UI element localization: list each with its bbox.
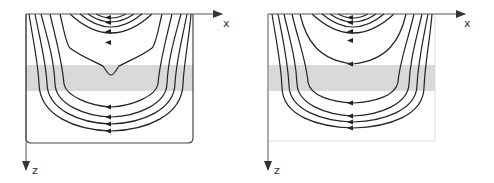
x-axis-label: x: [464, 17, 471, 30]
shallow-arrowheads: [347, 15, 353, 67]
left-panel: x z: [26, 14, 230, 177]
shallow-arrowheads: [105, 15, 111, 45]
z-axis-label: z: [274, 164, 280, 177]
right-panel: x z: [268, 14, 471, 177]
diagram-canvas: x z: [0, 0, 494, 183]
z-axis-label: z: [32, 164, 38, 177]
deep-arrowheads: [105, 105, 111, 134]
x-axis-label: x: [223, 17, 230, 30]
